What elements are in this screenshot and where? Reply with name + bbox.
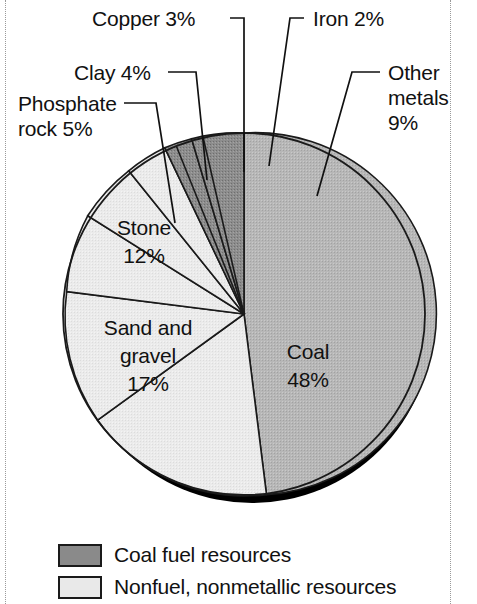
slice-label-coal-line2: 48% bbox=[258, 367, 358, 392]
legend-label-nonfuel-nonmetallic-resources: Nonfuel, nonmetallic resources bbox=[114, 575, 396, 599]
callout-label-iron: Iron 2% bbox=[313, 6, 384, 31]
callout-label-other-metals-line3: 9% bbox=[388, 110, 418, 135]
legend-item-coal-fuel-resources[interactable]: Coal fuel resources bbox=[58, 539, 396, 571]
callout-label-phosphate-rock-line2: rock 5% bbox=[18, 116, 92, 141]
legend-swatch-nonfuel-nonmetallic-resources bbox=[58, 576, 102, 599]
pie-chart-figure: Copper 3% Iron 2% Clay 4% Phosphate rock… bbox=[0, 0, 477, 604]
callout-label-clay: Clay 4% bbox=[74, 60, 151, 85]
slice-label-sand-line1: Sand and bbox=[84, 315, 212, 340]
callout-label-copper: Copper 3% bbox=[92, 6, 195, 31]
legend-swatch-coal-fuel-resources bbox=[58, 544, 102, 567]
callout-label-phosphate-rock-line1: Phosphate bbox=[18, 91, 117, 116]
slice-label-stone-line2: 12% bbox=[96, 243, 192, 268]
legend-item-nonfuel-nonmetallic-resources[interactable]: Nonfuel, nonmetallic resources bbox=[58, 571, 396, 603]
slice-label-sand-line2: gravel bbox=[84, 343, 212, 368]
chart-legend: Coal fuel resources Nonfuel, nonmetallic… bbox=[58, 539, 396, 603]
callout-label-other-metals-line1: Other bbox=[388, 60, 440, 85]
slice-label-sand-line3: 17% bbox=[84, 371, 212, 396]
slice-label-coal-line1: Coal bbox=[258, 339, 358, 364]
legend-label-coal-fuel-resources: Coal fuel resources bbox=[114, 543, 291, 567]
pie-slice-coal[interactable] bbox=[244, 133, 436, 495]
callout-label-other-metals-line2: metals bbox=[388, 85, 449, 110]
slice-label-stone-line1: Stone bbox=[96, 215, 192, 240]
